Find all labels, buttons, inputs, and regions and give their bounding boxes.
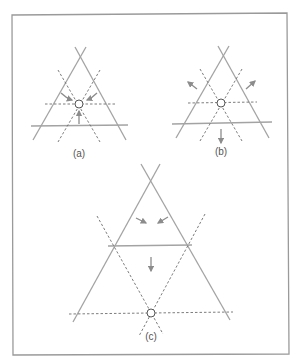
panel-b: (b) (172, 46, 272, 157)
figure-canvas: (a) (b) (c) (0, 0, 296, 362)
panel-label-a: (a) (73, 148, 85, 159)
panel-label-c: (c) (145, 331, 157, 342)
solid-line-right (141, 164, 230, 320)
panel-c: (c) (69, 164, 233, 342)
solid-line-left (73, 164, 160, 322)
arrow-inward-left-icon (61, 93, 72, 100)
arrow-inward-right-icon (158, 217, 168, 223)
center-point (75, 100, 83, 108)
panel-label-b: (b) (215, 146, 227, 157)
dashed-line-diag-2 (139, 214, 205, 336)
solid-line-right (218, 46, 269, 138)
arrow-outward-right-icon (246, 81, 255, 89)
arrow-outward-left-icon (188, 82, 197, 89)
solid-line-horizontal (108, 245, 192, 246)
arrow-inward-left-icon (136, 218, 146, 223)
panel-a: (a) (31, 47, 128, 159)
solid-line-base (31, 125, 128, 126)
meeting-point (147, 309, 155, 317)
figure-frame (12, 13, 289, 355)
arrow-inward-right-icon (87, 93, 97, 100)
center-point (217, 99, 225, 107)
solid-line-base (172, 122, 272, 124)
